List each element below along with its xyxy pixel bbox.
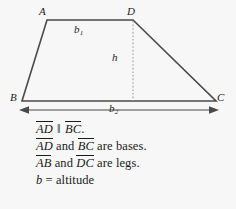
segment-notation: AB [36,155,51,170]
vertex-label-b: B [10,92,17,103]
bottom-base-measure-arrow [19,106,219,113]
bottom-base-label-base: b [109,102,115,114]
altitude-label: h [112,52,118,63]
bases-statement: AD and BC are bases. [36,138,226,155]
bottom-base-label-subscript: 2 [115,108,119,116]
top-base-label: b1 [74,24,83,37]
segment-notation: AD [36,121,53,136]
altitude-label-base: h [112,51,118,63]
top-base-label-base: b [74,23,80,35]
segment-notation: AD [36,138,53,153]
caption-text: and [53,139,78,153]
caption-text: are bases. [94,139,147,153]
caption-block: AD ‖ BC.AD and BC are bases.AB and DC ar… [36,121,226,189]
caption-text: are legs. [94,156,140,170]
vertex-label-c: C [217,92,224,103]
segment-notation: DC [76,155,94,170]
parallel-symbol: ‖ [56,122,62,136]
caption-text: = altitude [42,173,94,187]
legs-statement: AB and DC are legs. [36,155,226,172]
vertex-label-d: D [127,6,135,17]
caption-text: and [51,156,76,170]
top-base-label-subscript: 1 [80,29,84,37]
trapezoid-figure: A D B C b1 h b2 AD ‖ BC.AD and BC are ba… [0,0,236,209]
vertex-label-a: A [39,6,46,17]
bottom-base-label: b2 [109,103,118,116]
altitude-statement: b = altitude [36,172,226,189]
segment-notation: BC [78,138,94,153]
parallel-statement: AD ‖ BC. [36,121,226,138]
trapezoid-outline [22,20,216,101]
segment-notation: BC [65,121,81,136]
caption-text: . [81,122,84,136]
